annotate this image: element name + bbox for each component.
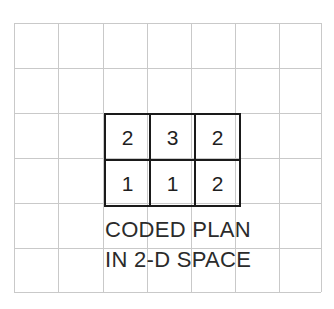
coded-plan-row: 112 [105,160,240,206]
coded-plan-cell-r1-c0: 1 [105,160,150,206]
coded-plan-cell-r1-c1: 1 [150,160,195,206]
grid-line-horizontal-1 [14,68,321,69]
coded-plan-cell-r0-c2: 2 [195,114,240,160]
caption-line-2: IN 2-D SPACE [105,245,325,275]
grid-line-horizontal-0 [14,23,321,24]
coded-plan-cell-r0-c1: 3 [150,114,195,160]
coded-plan-cell-r0-c0: 2 [105,114,150,160]
grid-line-horizontal-6 [14,292,321,293]
caption-block: CODED PLAN IN 2-D SPACE [105,215,325,275]
coded-plan-body: 232112 [105,114,240,206]
coded-plan-row: 232 [105,114,240,160]
coded-plan-figure: 232112 CODED PLAN IN 2-D SPACE [0,0,334,309]
coded-plan-table: 232112 [104,113,241,207]
caption-line-1: CODED PLAN [105,215,325,245]
coded-plan-cell-r1-c2: 2 [195,160,240,206]
